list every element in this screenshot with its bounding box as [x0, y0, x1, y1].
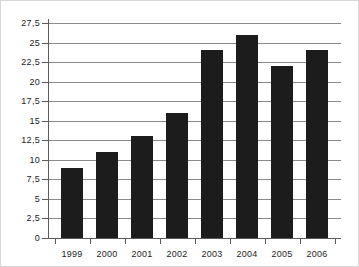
y-tick: [42, 62, 49, 63]
y-axis-label: 25: [1, 39, 40, 48]
x-tick: [195, 239, 196, 244]
x-axis-label-2000: 2000: [87, 249, 127, 259]
gridline: [48, 62, 341, 63]
gridline: [48, 218, 341, 219]
x-axis-label-1999: 1999: [52, 249, 92, 259]
x-tick: [125, 239, 126, 244]
y-axis-label: 0: [1, 234, 40, 243]
y-axis-label: 15: [1, 117, 40, 126]
bar-2002: [166, 113, 188, 238]
y-axis-label-text: 20: [2, 78, 40, 87]
x-axis-label-2002: 2002: [157, 249, 197, 259]
y-axis-label-text: 10: [2, 156, 40, 165]
y-tick: [42, 140, 49, 141]
x-axis-label-2004: 2004: [227, 249, 267, 259]
x-tick: [230, 239, 231, 244]
y-axis-label: 2,5: [1, 214, 40, 223]
y-axis-label-text: 27,5: [2, 19, 40, 28]
y-tick: [42, 101, 49, 102]
y-axis-label-text: 5: [2, 195, 40, 204]
y-axis-line: [48, 19, 49, 239]
y-tick: [42, 160, 49, 161]
y-axis-label-text: 15: [2, 117, 40, 126]
y-tick: [42, 82, 49, 83]
gridline: [48, 160, 341, 161]
y-tick: [42, 23, 49, 24]
y-tick: [42, 179, 49, 180]
gridline: [48, 82, 341, 83]
y-axis-label: 12,5: [1, 136, 40, 145]
gridline: [48, 121, 341, 122]
y-axis-label-text: 22,5: [2, 58, 40, 67]
bar-2000: [96, 152, 118, 238]
y-axis-label: 17,5: [1, 97, 40, 106]
y-axis-label-text: 0: [2, 234, 40, 243]
y-tick: [42, 238, 49, 239]
y-tick: [42, 218, 49, 219]
gridline: [48, 43, 341, 44]
gridline: [48, 140, 341, 141]
bar-2006: [306, 50, 328, 238]
bar-2004: [236, 35, 258, 238]
x-axis-label-2003: 2003: [192, 249, 232, 259]
bar-1999: [61, 168, 83, 238]
bar-chart: 27,5 25 22,5 20 17,5 15 12,5 10 7,5 5 2,…: [0, 0, 359, 267]
gridline: [48, 199, 341, 200]
x-tick: [300, 239, 301, 244]
x-tick: [335, 239, 336, 244]
x-axis-label-2005: 2005: [262, 249, 302, 259]
y-tick: [42, 43, 49, 44]
x-tick: [265, 239, 266, 244]
gridline: [48, 179, 341, 180]
x-tick: [160, 239, 161, 244]
bar-2005: [271, 66, 293, 238]
gridline: [48, 23, 341, 24]
y-axis-label-text: 25: [2, 39, 40, 48]
y-axis-label: 27,5: [1, 19, 40, 28]
bar-2003: [201, 50, 223, 238]
y-axis-label: 22,5: [1, 58, 40, 67]
bar-2001: [131, 136, 153, 238]
y-axis-label-text: 7,5: [2, 175, 40, 184]
gridline: [48, 101, 341, 102]
y-axis-label-text: 12,5: [2, 136, 40, 145]
y-tick: [42, 121, 49, 122]
x-tick: [90, 239, 91, 244]
y-axis-label: 7,5: [1, 175, 40, 184]
x-axis-line: [42, 238, 341, 239]
x-axis-label-2001: 2001: [122, 249, 162, 259]
y-axis-label: 5: [1, 195, 40, 204]
y-axis-label: 20: [1, 78, 40, 87]
y-tick: [42, 199, 49, 200]
y-axis-label-text: 17,5: [2, 97, 40, 106]
x-tick: [55, 239, 56, 244]
x-axis-label-2006: 2006: [297, 249, 337, 259]
y-axis-label: 10: [1, 156, 40, 165]
y-axis-label-text: 2,5: [2, 214, 40, 223]
